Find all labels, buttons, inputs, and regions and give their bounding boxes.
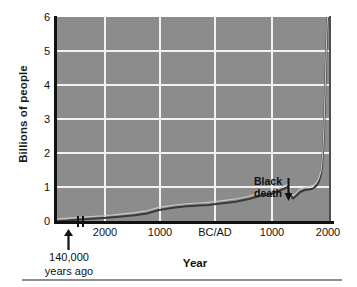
x-tick-bcad: BC/AD	[198, 226, 232, 238]
x-tick-2000bc: 2000	[93, 226, 117, 238]
x-origin-caption: 140,000 years ago	[8, 250, 130, 278]
x-axis-tick-labels: 2000 1000 BC/AD 1000 2000	[0, 226, 357, 242]
bottom-divider	[22, 279, 342, 281]
y-tick-3: 3	[30, 113, 50, 125]
y-tick-1: 1	[30, 181, 50, 193]
population-chart-figure: Billions of people 6 5 4 3 2 1 0	[0, 0, 357, 287]
x-origin-caption-line2: years ago	[8, 264, 130, 278]
x-tick-1000bc: 1000	[148, 226, 172, 238]
y-tick-2: 2	[30, 147, 50, 159]
plot-right-edge	[329, 16, 331, 223]
y-tick-4: 4	[30, 79, 50, 91]
x-axis-line	[54, 221, 334, 224]
y-axis-tick-labels: 6 5 4 3 2 1 0	[26, 0, 50, 287]
y-tick-6: 6	[30, 11, 50, 23]
y-tick-5: 5	[30, 45, 50, 57]
up-arrow-icon	[63, 228, 74, 250]
y-axis-line	[54, 16, 57, 223]
x-tick-2000ad: 2000	[316, 226, 340, 238]
x-origin-caption-line1: 140,000	[8, 250, 130, 264]
black-death-annotation-line1: Black	[247, 176, 289, 188]
x-axis-label: Year	[155, 257, 235, 269]
down-arrow-icon	[284, 178, 293, 202]
black-death-annotation: Black death	[247, 176, 289, 199]
x-tick-1000ad: 1000	[260, 226, 284, 238]
black-death-annotation-line2: death	[247, 188, 289, 200]
